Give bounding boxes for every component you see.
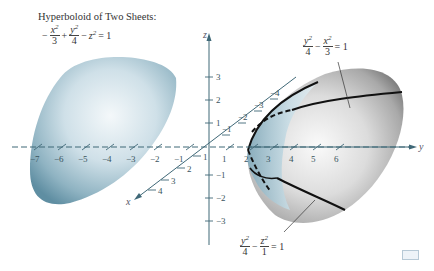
svg-text:−5: −5 (78, 154, 88, 164)
svg-text:6: 6 (334, 154, 339, 164)
svg-text:1: 1 (216, 118, 221, 128)
svg-text:3: 3 (216, 72, 221, 82)
svg-text:3: 3 (171, 176, 176, 186)
svg-text:−4: −4 (102, 154, 112, 164)
svg-text:1: 1 (203, 152, 208, 162)
svg-text:−3: −3 (254, 100, 264, 110)
svg-text:4: 4 (158, 186, 163, 196)
y-axis-label: y (418, 141, 424, 152)
svg-text:−3: −3 (126, 154, 136, 164)
svg-text:2: 2 (187, 164, 192, 174)
y-tick-labels-negative: −7 −6 −5 −4 −3 −2 −1 (30, 154, 184, 164)
svg-text:−2: −2 (216, 193, 226, 203)
svg-text:−1: −1 (174, 154, 184, 164)
svg-text:2: 2 (244, 154, 249, 164)
svg-text:3: 3 (266, 154, 271, 164)
svg-text:−6: −6 (54, 154, 64, 164)
svg-text:−4: −4 (270, 88, 280, 98)
svg-text:1: 1 (222, 154, 227, 164)
svg-text:4: 4 (289, 154, 294, 164)
svg-text:−1: −1 (216, 170, 226, 180)
svg-text:2: 2 (216, 95, 221, 105)
z-axis-label: z (202, 29, 207, 40)
plot-svg: z y x −7 −6 −5 −4 −3 −2 −1 (0, 0, 434, 271)
x-axis-label: x (125, 196, 131, 207)
svg-text:−3: −3 (216, 216, 226, 226)
expand-icon[interactable] (402, 250, 419, 260)
svg-text:5: 5 (311, 154, 316, 164)
svg-text:−1: −1 (222, 124, 232, 134)
hyperboloid-figure: Hyperboloid of Two Sheets: − x2 3 + y2 4… (0, 0, 434, 271)
svg-text:−2: −2 (150, 154, 160, 164)
svg-text:−2: −2 (238, 112, 248, 122)
left-sheet (30, 57, 176, 204)
svg-text:−7: −7 (30, 154, 40, 164)
